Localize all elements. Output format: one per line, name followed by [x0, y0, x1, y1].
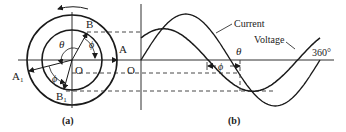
- current-leader-line: [216, 24, 232, 33]
- label-O-b: O: [127, 64, 135, 76]
- label-voltage: Voltage: [254, 34, 285, 45]
- label-A1: A1: [12, 70, 24, 84]
- label-phi-top: ϕ: [89, 39, 94, 50]
- label-A: A: [119, 43, 127, 55]
- label-current: Current: [234, 18, 265, 29]
- label-B: B: [86, 18, 93, 30]
- label-phi-b: ϕ: [218, 61, 223, 72]
- phasor-A1-arrow: [29, 60, 72, 71]
- label-O-a: O: [75, 64, 83, 76]
- panel-b: O ϕ θ 360° Current Voltage (b): [127, 4, 331, 127]
- caption-b: (b): [228, 115, 240, 127]
- rotation-arrow-icon: [58, 7, 88, 9]
- label-B1: B1: [56, 90, 67, 104]
- phasor-B-arrow: [72, 33, 87, 60]
- caption-a: (a): [62, 115, 74, 127]
- voltage-leader-line: [286, 42, 295, 49]
- label-theta-b: θ: [236, 45, 242, 57]
- phasor-diagram-figure: B A O θ ϕ ϕ A1 B1 (a) O ϕ θ 360° Current…: [0, 0, 346, 132]
- phasor-B1-arrow: [64, 60, 72, 89]
- label-360: 360°: [312, 47, 331, 58]
- label-theta-a: θ: [59, 38, 65, 50]
- panel-a: B A O θ ϕ ϕ A1 B1 (a): [12, 7, 127, 127]
- label-phi-bottom: ϕ: [52, 73, 57, 84]
